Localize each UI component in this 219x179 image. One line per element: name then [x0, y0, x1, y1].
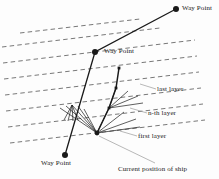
- first-layer-leader: [120, 131, 137, 136]
- selected-branch-path: [97, 68, 119, 133]
- tree-node-0: [108, 107, 111, 110]
- layer-line-6: [2, 28, 160, 47]
- fan-sub-branch-0: [64, 105, 72, 120]
- ship-leader: [99, 136, 155, 163]
- fan-sub-branch-1: [68, 105, 72, 121]
- last-layer-leader: [140, 84, 156, 89]
- label-nth-layer: n-th layer: [148, 110, 176, 117]
- tree-node-2: [118, 67, 121, 70]
- label-waypoint-middle: Way Point: [104, 48, 134, 55]
- label-last-layer: last layer: [157, 86, 183, 93]
- selected-branch-polyline: [97, 68, 119, 133]
- search-tree-fan: [60, 88, 143, 133]
- label-current-position-of-ship: Current position of ship: [118, 166, 187, 173]
- layer-line-7: [20, 19, 140, 33]
- figure-container: Way Point Way Point Way Point last layer…: [0, 0, 219, 179]
- waypoint-marker-0: [173, 6, 179, 12]
- waypoint-marker-1: [92, 49, 98, 55]
- dashed-layer-lines: [2, 19, 205, 143]
- ship-position-marker: [95, 131, 100, 136]
- waypoint-marker-2: [62, 152, 68, 158]
- diagram-canvas: [0, 0, 219, 179]
- label-first-layer: first layer: [138, 133, 166, 140]
- label-waypoint-bottom: Way Point: [41, 160, 71, 167]
- fan-root-branch-3: [78, 106, 97, 133]
- label-leader-lines: [99, 84, 156, 163]
- label-waypoint-top: Way Point: [182, 5, 212, 12]
- tree-node-1: [115, 87, 118, 90]
